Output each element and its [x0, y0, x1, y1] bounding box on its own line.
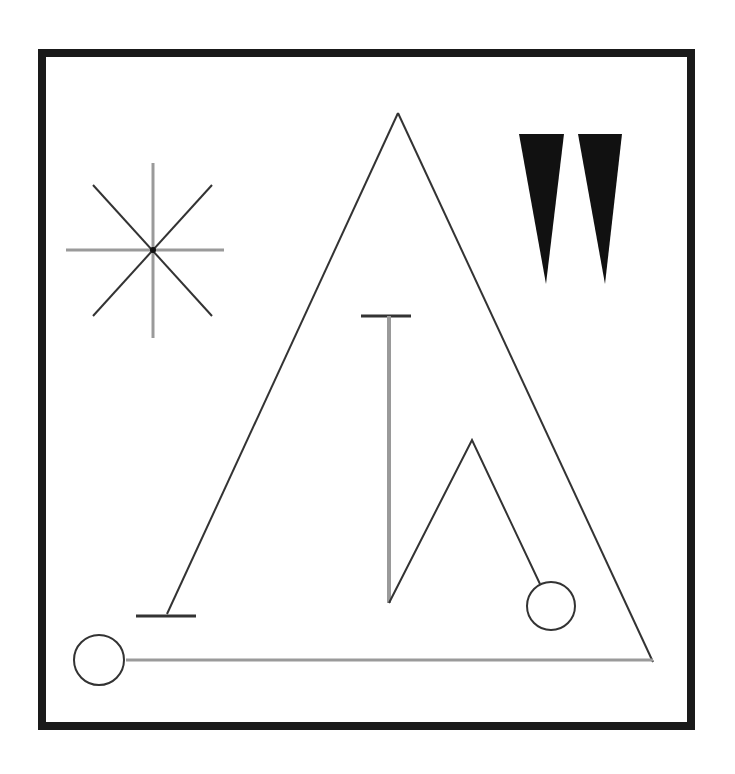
zigzag-line	[389, 440, 540, 603]
black-wedge-right	[578, 134, 622, 284]
abstract-diagram	[0, 0, 735, 774]
right-circle-node	[527, 582, 575, 630]
black-wedge-left	[519, 134, 564, 284]
star-icon	[66, 163, 224, 338]
left-circle-node	[74, 635, 124, 685]
star-center-dot	[150, 247, 156, 253]
triangle-left-edge	[167, 113, 398, 614]
